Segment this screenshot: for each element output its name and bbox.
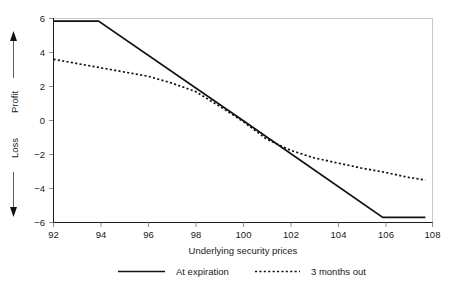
x-tick-label: 94 <box>96 229 107 240</box>
series-at-expiration <box>54 21 426 217</box>
x-tick-label: 100 <box>236 229 252 240</box>
y-axis-tick-labels: 6 4 2 0 −2 −4 −6 <box>34 13 45 228</box>
chart-svg: 6 4 2 0 −2 −4 −6 92 94 96 98 100 <box>0 0 449 284</box>
x-tick-label: 108 <box>425 229 441 240</box>
series-3-months-out <box>54 59 426 180</box>
x-axis-ticks <box>54 223 433 228</box>
y-tick-label: −6 <box>34 217 45 228</box>
y-tick-label: 4 <box>40 47 45 58</box>
y-axis-title-profit: Profit <box>9 91 20 114</box>
x-tick-label: 96 <box>143 229 154 240</box>
y-tick-label: −4 <box>34 183 45 194</box>
legend-label-3-months-out: 3 months out <box>311 266 366 277</box>
x-axis-title: Underlying security prices <box>189 245 298 256</box>
y-tick-label: 6 <box>40 13 45 24</box>
legend-label-at-expiration: At expiration <box>176 266 229 277</box>
y-tick-label: 2 <box>40 81 45 92</box>
y-axis-ticks <box>49 19 53 223</box>
x-tick-label: 106 <box>378 229 394 240</box>
x-axis-tick-labels: 92 94 96 98 100 102 104 106 108 <box>48 229 440 240</box>
profit-direction-arrow <box>10 31 17 78</box>
x-tick-label: 104 <box>331 229 347 240</box>
y-axis-title-loss: Loss <box>9 138 20 158</box>
loss-direction-arrow <box>10 172 17 217</box>
x-tick-label: 98 <box>191 229 202 240</box>
x-tick-label: 92 <box>48 229 59 240</box>
y-axis-annotation-group: Profit Loss <box>9 31 20 217</box>
y-tick-label: 0 <box>40 115 45 126</box>
profit-loss-chart: 6 4 2 0 −2 −4 −6 92 94 96 98 100 <box>0 0 449 284</box>
chart-legend: At expiration 3 months out <box>118 266 366 277</box>
y-tick-label: −2 <box>34 149 45 160</box>
x-tick-label: 102 <box>283 229 299 240</box>
